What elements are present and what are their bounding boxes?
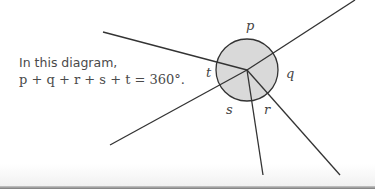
angle-label-p: p bbox=[246, 18, 255, 33]
angle-label-s: s bbox=[226, 102, 233, 117]
ray-1 bbox=[247, 0, 355, 70]
angles-diagram: pqrst bbox=[0, 0, 375, 189]
formula-text: p + q + r + s + t = 360°. bbox=[19, 72, 185, 87]
caption-line1: In this diagram, bbox=[19, 54, 185, 71]
caption: In this diagram, p + q + r + s + t = 360… bbox=[19, 54, 185, 88]
caption-formula: p + q + r + s + t = 360°. bbox=[19, 71, 185, 88]
bottom-bar bbox=[0, 186, 375, 189]
angle-label-q: q bbox=[286, 66, 294, 81]
angle-label-r: r bbox=[264, 102, 271, 117]
angle-label-t: t bbox=[206, 65, 212, 80]
